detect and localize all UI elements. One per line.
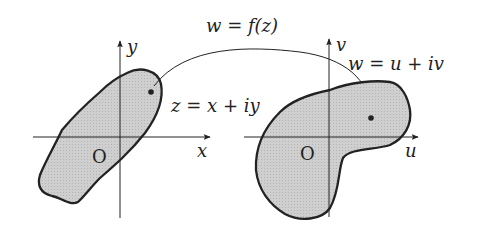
w-region	[256, 81, 410, 219]
z-y-axis-label: y	[126, 36, 138, 57]
z-plane: y x O z = x + iy	[33, 36, 260, 218]
w-plane: v u O w = u + iv	[244, 34, 444, 219]
conformal-mapping-diagram: y x O z = x + iy w = f(z) v u O w = u + …	[0, 0, 488, 242]
w-v-axis-label: v	[336, 34, 346, 55]
z-region	[39, 70, 162, 203]
w-u-axis-label: u	[405, 140, 417, 161]
w-origin-label: O	[300, 143, 315, 164]
mapping-label: w = f(z)	[206, 15, 278, 36]
z-point	[148, 89, 154, 95]
z-x-axis-label: x	[197, 140, 207, 161]
z-origin-label: O	[92, 146, 107, 167]
w-point-label: w = u + iv	[348, 53, 444, 74]
w-point	[368, 115, 374, 121]
z-point-label: z = x + iy	[170, 95, 260, 116]
